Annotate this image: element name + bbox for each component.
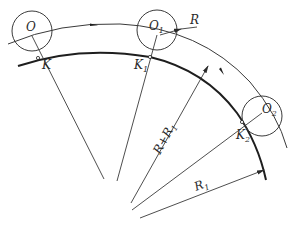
pitch-curve (8, 24, 287, 148)
cam-profile-diagram: O O1 O2 K K1 K2 R R+R1 R1 (0, 0, 301, 234)
contact-point-K (36, 56, 39, 59)
label-O1: O1 (149, 19, 164, 35)
label-R1: R1 (191, 176, 211, 196)
dimension-R1 (140, 170, 264, 218)
direction-arrow-icon (219, 68, 224, 76)
label-R: R (189, 13, 199, 27)
label-R-plus-R1: R+R1 (150, 121, 180, 159)
contact-point-K2 (240, 120, 243, 123)
label-O2: O2 (262, 102, 277, 118)
contact-point-K1 (148, 55, 151, 58)
label-K1: K1 (133, 58, 148, 74)
dimension-R-leader (181, 27, 197, 29)
label-K: K (41, 58, 52, 72)
label-O: O (26, 20, 36, 34)
